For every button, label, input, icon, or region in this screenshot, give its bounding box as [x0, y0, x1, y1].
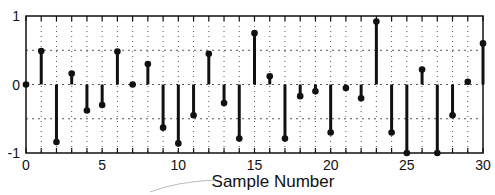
stem-marker	[282, 135, 289, 142]
stem-sample	[145, 61, 152, 85]
stem-marker	[68, 70, 75, 77]
y-tick-label: 1	[12, 8, 20, 24]
stem-marker	[114, 48, 121, 55]
stem-marker	[23, 81, 30, 88]
stem-marker	[327, 129, 334, 136]
x-tick-label: 10	[171, 157, 187, 173]
stem-sample	[53, 85, 60, 146]
stem-marker	[206, 50, 213, 57]
stem-sample	[358, 85, 365, 102]
stem-marker	[129, 81, 136, 88]
x-axis-label: Sample Number	[212, 172, 335, 191]
stem-marker	[221, 100, 228, 107]
x-tick-label: 15	[247, 157, 263, 173]
stem-marker	[160, 124, 167, 131]
stem-sample	[464, 78, 471, 85]
stem-sample	[114, 48, 121, 84]
stem-sample	[236, 85, 243, 142]
stem-marker	[419, 66, 426, 73]
stem-marker	[434, 150, 441, 157]
y-tick-label: 0	[12, 77, 20, 93]
stem-sample	[312, 85, 319, 95]
stem-sample	[404, 85, 411, 157]
stem-sample	[175, 85, 182, 147]
y-tick-label: -1	[8, 145, 21, 161]
stem-marker	[297, 93, 304, 100]
stem-sample	[129, 81, 136, 88]
stem-marker	[404, 150, 411, 157]
stem-marker	[175, 140, 182, 147]
stem-sample	[266, 73, 273, 85]
stem-sample	[38, 48, 45, 85]
stem-marker	[266, 73, 273, 80]
stem-marker	[251, 30, 258, 37]
stem-sample	[160, 85, 167, 131]
stem-marker	[449, 112, 456, 119]
stem-sample	[297, 85, 304, 100]
x-tick-label: 0	[22, 157, 30, 173]
stem-sample	[221, 85, 228, 107]
stem-sample	[99, 85, 106, 109]
stem-marker	[312, 88, 319, 95]
stem-plot: 051015202530-101 Sample Number	[0, 0, 495, 195]
stem-sample	[327, 85, 334, 136]
x-tick-label: 25	[399, 157, 415, 173]
x-tick-label: 30	[475, 157, 491, 173]
stem-sample	[373, 18, 380, 84]
x-tick-label: 5	[98, 157, 106, 173]
stem-sample	[190, 85, 197, 119]
x-tick-label: 20	[323, 157, 339, 173]
stem-marker	[480, 40, 487, 47]
stem-sample	[68, 70, 75, 84]
stem-series	[23, 18, 487, 156]
stem-sample	[388, 85, 395, 136]
stem-sample	[434, 85, 441, 157]
stem-marker	[464, 78, 471, 85]
stem-sample	[206, 50, 213, 84]
stem-sample	[480, 40, 487, 84]
stem-sample	[23, 81, 30, 88]
stem-sample	[343, 85, 350, 92]
stem-marker	[388, 129, 395, 136]
stem-marker	[373, 18, 380, 25]
stem-marker	[53, 139, 60, 146]
stem-sample	[84, 85, 91, 114]
stem-marker	[358, 95, 365, 102]
pencil-mark	[150, 180, 215, 192]
stem-marker	[145, 61, 152, 68]
stem-marker	[38, 48, 45, 55]
stem-marker	[190, 112, 197, 119]
tick-labels: 051015202530-101	[8, 8, 491, 173]
stem-marker	[236, 135, 243, 142]
stem-sample	[251, 30, 258, 85]
stem-marker	[343, 85, 350, 92]
stem-sample	[449, 85, 456, 119]
stem-marker	[99, 102, 106, 109]
stem-marker	[84, 107, 91, 114]
stem-sample	[419, 66, 426, 84]
stem-sample	[282, 85, 289, 142]
